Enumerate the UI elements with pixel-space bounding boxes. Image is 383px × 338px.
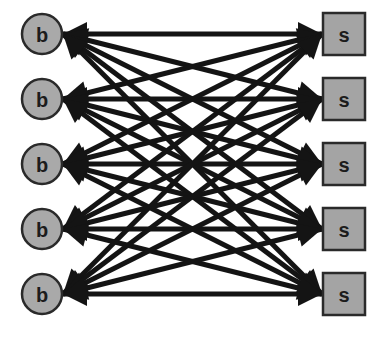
node-label: s	[338, 219, 349, 241]
node-label: b	[36, 284, 48, 306]
node-label: s	[338, 89, 349, 111]
node-s2: s	[323, 78, 365, 120]
node-label: b	[36, 154, 48, 176]
bipartite-diagram: bbbbbsssss	[0, 0, 383, 338]
node-s4: s	[323, 208, 365, 250]
node-b5: b	[22, 274, 62, 314]
node-b2: b	[22, 79, 62, 119]
node-label: s	[338, 154, 349, 176]
edges-layer	[63, 34, 322, 294]
node-label: b	[36, 219, 48, 241]
node-b4: b	[22, 209, 62, 249]
node-label: s	[338, 24, 349, 46]
node-label: b	[36, 89, 48, 111]
node-s5: s	[323, 273, 365, 315]
node-label: b	[36, 24, 48, 46]
node-label: s	[338, 284, 349, 306]
node-b1: b	[22, 14, 62, 54]
node-s3: s	[323, 143, 365, 185]
node-s1: s	[323, 13, 365, 55]
node-b3: b	[22, 144, 62, 184]
